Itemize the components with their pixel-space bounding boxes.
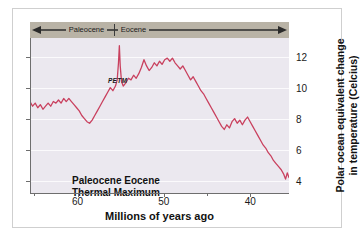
x-axis-title: Millions of years ago: [30, 210, 289, 222]
x-axis-tick-minor: [34, 193, 35, 196]
epoch-label-eocene: Eocene: [118, 24, 149, 36]
thermal-maximum-label-line1: Paleocene Eocene: [72, 175, 160, 187]
y-axis-tick: [26, 150, 30, 151]
temperature-series-line: [30, 38, 289, 193]
x-axis-tick-minor: [121, 193, 122, 196]
x-axis-tick-label: 40: [245, 196, 256, 207]
y-axis-tick-label: 10: [296, 82, 307, 93]
epoch-band: Paleocene Eocene: [30, 22, 289, 38]
y-axis-tick: [26, 57, 30, 58]
y-axis-tick-label: 12: [296, 51, 307, 62]
y-axis-line: [30, 38, 31, 193]
plot-area: PETM Paleocene Eocene Thermal Maximum: [30, 38, 289, 193]
thermal-maximum-annotation: Paleocene Eocene Thermal Maximum: [72, 175, 160, 199]
x-axis-tick-minor: [207, 193, 208, 196]
y-axis-tick: [26, 181, 30, 182]
y-axis-tick: [26, 88, 30, 89]
epoch-label-paleocene: Paleocene: [66, 24, 107, 36]
y-axis-title: Polar ocean equivalent change in tempera…: [334, 38, 364, 193]
y-axis-tick-label: 6: [296, 144, 302, 155]
epoch-divider: [114, 24, 115, 36]
x-axis-tick-label: 50: [158, 196, 169, 207]
petm-spike-label: PETM: [108, 77, 127, 84]
y-axis-tick-label: 8: [296, 113, 302, 124]
y-axis-title-line2: in temperature (Celcius): [347, 38, 360, 193]
y-axis-tick: [26, 119, 30, 120]
y-axis-title-line1: Polar ocean equivalent change: [334, 38, 347, 193]
x-axis-tick-label: 60: [72, 196, 83, 207]
y-axis-tick-label: 4: [296, 175, 302, 186]
